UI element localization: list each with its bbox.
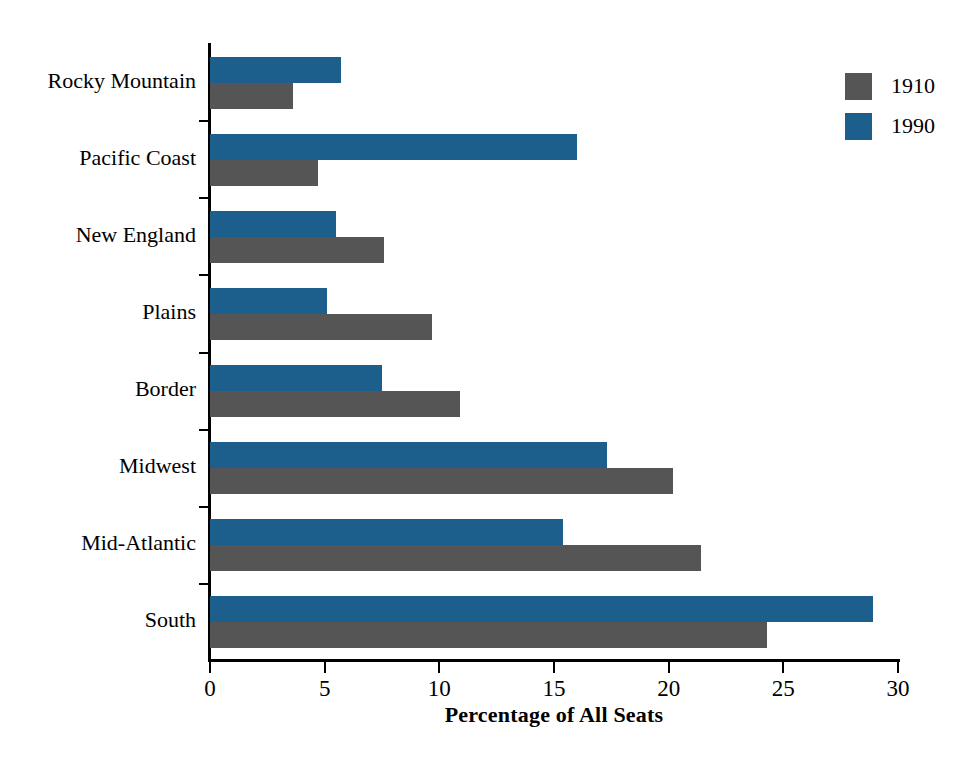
- y-axis-tick: [199, 583, 210, 585]
- bar-1990-pacific-coast: [210, 134, 577, 160]
- x-tick-mark: [209, 662, 211, 673]
- bar-1990-mid-atlantic: [210, 519, 563, 545]
- bar-group: [210, 132, 898, 186]
- category-label-rocky-mountain: Rocky Mountain: [6, 70, 196, 92]
- bar-1990-border: [210, 365, 382, 391]
- y-axis-tick: [199, 274, 210, 276]
- category-label-border: Border: [6, 378, 196, 400]
- bar-1910-pacific-coast: [210, 160, 318, 186]
- x-tick-mark: [324, 662, 326, 673]
- bar-1990-rocky-mountain: [210, 57, 341, 83]
- x-tick-mark: [668, 662, 670, 673]
- legend-label-1910: 1910: [891, 75, 935, 97]
- category-label-new-england: New England: [6, 224, 196, 246]
- x-tick-mark: [553, 662, 555, 673]
- bar-1910-midwest: [210, 468, 673, 494]
- bar-1910-plains: [210, 314, 432, 340]
- category-label-mid-atlantic: Mid-Atlantic: [6, 532, 196, 554]
- bar-1910-new-england: [210, 237, 384, 263]
- bar-group: [210, 440, 898, 494]
- bar-group: [210, 286, 898, 340]
- x-tick-mark: [897, 662, 899, 673]
- bar-group: [210, 209, 898, 263]
- x-axis-title: Percentage of All Seats: [210, 702, 898, 728]
- x-tick-label: 30: [868, 676, 928, 702]
- bar-1990-new-england: [210, 211, 336, 237]
- bar-group: [210, 363, 898, 417]
- bar-group: [210, 594, 898, 648]
- bar-1910-south: [210, 622, 767, 648]
- y-axis-tick: [199, 352, 210, 354]
- y-axis-tick: [199, 197, 210, 199]
- x-tick-mark: [438, 662, 440, 673]
- legend-swatch-1990: [845, 113, 872, 140]
- x-tick-label: 25: [753, 676, 813, 702]
- category-label-pacific-coast: Pacific Coast: [6, 147, 196, 169]
- bar-1910-rocky-mountain: [210, 83, 293, 109]
- plot-area: [210, 43, 898, 660]
- category-label-south: South: [6, 609, 196, 631]
- bar-1990-midwest: [210, 442, 607, 468]
- x-tick-label: 10: [409, 676, 469, 702]
- bar-1910-border: [210, 391, 460, 417]
- legend-label-1990: 1990: [891, 115, 935, 137]
- y-axis-tick: [199, 120, 210, 122]
- category-label-plains: Plains: [6, 301, 196, 323]
- chart-legend: 19101990: [845, 66, 935, 146]
- x-tick-label: 0: [180, 676, 240, 702]
- x-tick-label: 5: [295, 676, 355, 702]
- bar-chart: Rocky MountainPacific CoastNew EnglandPl…: [0, 0, 970, 767]
- category-label-midwest: Midwest: [6, 455, 196, 477]
- legend-item-1990: 1990: [845, 106, 935, 146]
- bar-1990-south: [210, 596, 873, 622]
- legend-item-1910: 1910: [845, 66, 935, 106]
- y-axis-tick: [199, 506, 210, 508]
- bar-group: [210, 517, 898, 571]
- bar-group: [210, 55, 898, 109]
- x-tick-label: 20: [639, 676, 699, 702]
- x-tick-mark: [782, 662, 784, 673]
- bar-1990-plains: [210, 288, 327, 314]
- bar-1910-mid-atlantic: [210, 545, 701, 571]
- legend-swatch-1910: [845, 73, 872, 100]
- y-axis-category-labels: Rocky MountainPacific CoastNew EnglandPl…: [0, 43, 196, 660]
- x-tick-label: 15: [524, 676, 584, 702]
- y-axis-tick: [199, 429, 210, 431]
